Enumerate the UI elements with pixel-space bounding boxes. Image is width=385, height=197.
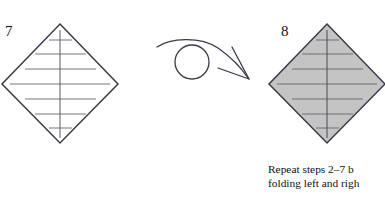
arrow-loop-circle: [175, 45, 209, 79]
caption-line-2: folding left and righ: [268, 177, 385, 191]
step-number-7: 7: [5, 24, 13, 39]
flip-over-arrow: [157, 40, 249, 79]
step-number-8: 8: [281, 24, 289, 39]
origami-diagram-page: 7 8 Repeat steps 2–7 b folding left and …: [0, 0, 385, 197]
caption-block: Repeat steps 2–7 b folding left and righ: [268, 163, 385, 190]
caption-line-1: Repeat steps 2–7 b: [268, 163, 385, 177]
step-7-figure: [2, 24, 118, 143]
step-8-figure: [269, 24, 385, 143]
arrow-curve: [157, 40, 248, 78]
